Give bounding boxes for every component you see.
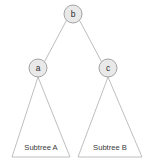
tree-edges [45,20,102,61]
node-b-label: b [71,9,76,19]
edge-b-to-c [80,20,102,61]
node-a: a [29,59,47,77]
tree-canvas: Subtree A Subtree B b a c [0,0,149,163]
node-c: c [99,59,117,77]
node-b: b [64,5,82,23]
subtree-a-label: Subtree A [24,143,58,152]
edge-b-to-a [45,20,67,61]
subtree-b-label: Subtree B [93,143,127,152]
node-a-label: a [36,63,41,73]
binary-tree-diagram: Subtree A Subtree B b a c [0,0,149,163]
